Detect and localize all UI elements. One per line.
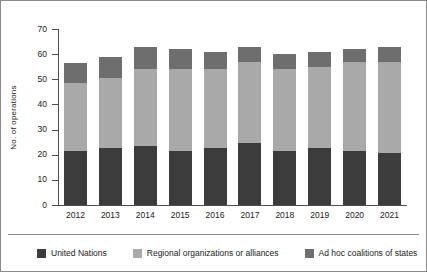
- plot-area: No. of operations 010203040506070 201220…: [1, 1, 426, 234]
- bar-segment[interactable]: [169, 69, 192, 151]
- x-axis-tick-label: 2015: [163, 208, 198, 222]
- legend-label: Ad hoc coalitions of states: [319, 248, 418, 258]
- x-axis-tick-label: 2020: [337, 208, 372, 222]
- bars-container: [58, 29, 407, 205]
- bar-group[interactable]: [64, 29, 87, 205]
- y-axis-tick: [52, 205, 58, 206]
- legend-item[interactable]: Ad hoc coalitions of states: [305, 248, 418, 258]
- bar-segment[interactable]: [308, 67, 331, 149]
- bar-group[interactable]: [308, 29, 331, 205]
- bar-stack: [99, 57, 122, 205]
- y-axis-tick-label: 10: [1, 175, 47, 184]
- bar-segment[interactable]: [204, 69, 227, 148]
- x-axis-tick-label: 2016: [198, 208, 233, 222]
- x-axis-line: [58, 205, 407, 206]
- bar-segment[interactable]: [64, 63, 87, 83]
- legend-item[interactable]: United Nations: [37, 248, 107, 258]
- bar-segment[interactable]: [99, 57, 122, 78]
- x-axis-labels: 2012201320142015201620172018201920202021: [58, 208, 407, 224]
- bar-segment[interactable]: [378, 62, 401, 154]
- bar-segment[interactable]: [343, 151, 366, 205]
- chart-figure: No. of operations 010203040506070 201220…: [0, 0, 427, 272]
- bar-group[interactable]: [343, 29, 366, 205]
- y-axis-tick-label: 20: [1, 150, 47, 159]
- bar-segment[interactable]: [273, 69, 296, 151]
- bar-segment[interactable]: [343, 62, 366, 151]
- y-axis-tick-label: 70: [1, 25, 47, 34]
- bar-stack: [238, 47, 261, 205]
- bar-segment[interactable]: [378, 47, 401, 62]
- bar-stack: [308, 52, 331, 205]
- bar-stack: [204, 52, 227, 205]
- bar-segment[interactable]: [238, 47, 261, 62]
- legend-swatch: [37, 249, 46, 258]
- y-axis-tick-label: 40: [1, 100, 47, 109]
- x-axis-tick-label: 2019: [302, 208, 337, 222]
- bar-segment[interactable]: [134, 146, 157, 205]
- bar-segment[interactable]: [308, 52, 331, 67]
- bar-stack: [169, 49, 192, 205]
- bar-segment[interactable]: [273, 151, 296, 205]
- bar-stack: [343, 49, 366, 205]
- bar-group[interactable]: [238, 29, 261, 205]
- bar-group[interactable]: [99, 29, 122, 205]
- bar-segment[interactable]: [378, 153, 401, 205]
- bar-group[interactable]: [169, 29, 192, 205]
- bar-group[interactable]: [378, 29, 401, 205]
- bar-segment[interactable]: [64, 151, 87, 205]
- legend-label: Regional organizations or alliances: [147, 248, 279, 258]
- y-axis-tick-label: 50: [1, 75, 47, 84]
- y-axis-tick-label: 30: [1, 125, 47, 134]
- bar-group[interactable]: [204, 29, 227, 205]
- legend-label: United Nations: [51, 248, 107, 258]
- bar-segment[interactable]: [134, 69, 157, 146]
- x-axis-tick-label: 2014: [128, 208, 163, 222]
- bar-segment[interactable]: [169, 49, 192, 69]
- x-axis-tick-label: 2017: [233, 208, 268, 222]
- chart-legend: United NationsRegional organizations or …: [1, 235, 426, 271]
- legend-item[interactable]: Regional organizations or alliances: [133, 248, 279, 258]
- bar-segment[interactable]: [99, 78, 122, 148]
- y-axis-tick-label: 0: [1, 201, 47, 210]
- legend-swatch: [133, 249, 142, 258]
- bar-segment[interactable]: [169, 151, 192, 205]
- bar-segment[interactable]: [308, 148, 331, 205]
- bar-segment[interactable]: [273, 54, 296, 69]
- bar-stack: [378, 47, 401, 205]
- bar-stack: [273, 54, 296, 205]
- x-axis-tick-label: 2013: [93, 208, 128, 222]
- bar-segment[interactable]: [99, 148, 122, 205]
- bar-group[interactable]: [134, 29, 157, 205]
- x-axis-tick-label: 2012: [58, 208, 93, 222]
- x-axis-tick-label: 2021: [372, 208, 407, 222]
- y-axis-tick-label: 60: [1, 50, 47, 59]
- bar-segment[interactable]: [204, 148, 227, 205]
- bar-segment[interactable]: [134, 47, 157, 70]
- bar-stack: [134, 47, 157, 205]
- bar-stack: [64, 63, 87, 205]
- bar-group[interactable]: [273, 29, 296, 205]
- bar-segment[interactable]: [238, 62, 261, 144]
- bar-segment[interactable]: [343, 49, 366, 62]
- bar-segment[interactable]: [204, 52, 227, 70]
- bar-segment[interactable]: [64, 83, 87, 151]
- bar-segment[interactable]: [238, 143, 261, 205]
- legend-swatch: [305, 249, 314, 258]
- x-axis-tick-label: 2018: [267, 208, 302, 222]
